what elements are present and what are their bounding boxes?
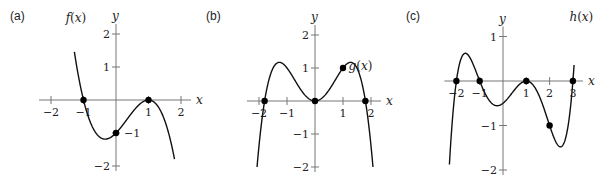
x-tick-label: 1 [145,106,152,119]
function-label: g(x) [349,59,373,73]
marked-point [261,98,267,104]
y-tick-label: −1 [124,127,140,140]
function-curve-c [449,53,574,164]
x-axis-label: x [196,93,203,107]
x-axis-label: x [588,74,595,88]
x-tick-label: −1 [75,106,91,119]
x-tick-label: −1 [279,107,295,120]
marked-point [477,78,483,84]
y-axis-label: y [310,10,318,24]
y-tick-label: −2 [481,164,497,177]
x-tick-label: 1 [523,87,530,100]
y-tick-label: −1 [293,128,309,141]
x-tick-label: 2 [546,87,553,100]
y-tick-label: 2 [103,28,110,41]
y-tick-label: 1 [302,62,309,75]
panel-label: (a) [10,9,25,23]
x-tick-label: −2 [251,107,267,120]
y-tick-label: −2 [293,161,309,174]
x-tick-label: −2 [43,106,59,119]
y-tick-label: −2 [94,160,110,173]
marked-point [570,78,576,84]
y-axis-label: y [111,9,119,23]
figure: (a)xy−2−11221−1−2f(x) (b)xy−2−11221−1−2g… [0,0,611,186]
y-tick-label: 1 [103,61,110,74]
x-tick-label: −2 [448,87,464,100]
y-axis-label: y [498,12,506,26]
panel-a-graph: (a)xy−2−11221−1−2f(x) [10,9,203,173]
marked-point [453,78,459,84]
panel-b-graph: (b)xy−2−11221−1−2g(x) [206,9,393,174]
marked-point [312,98,318,104]
y-tick-label: −1 [481,120,497,133]
marked-point [362,98,368,104]
marked-point [546,122,552,128]
panel-c-graph: (c)xy−2−11231−1−2h(x) [406,9,595,177]
panel-label: (c) [406,9,420,23]
x-tick-label: 1 [340,107,347,120]
marked-point [523,78,529,84]
x-tick-label: 2 [178,106,185,119]
marked-point [340,65,346,71]
marked-point [80,97,86,103]
marked-point [113,130,119,136]
function-label: f(x) [65,11,87,25]
x-axis-label: x [386,94,393,108]
y-tick-label: 1 [490,31,497,44]
function-label: h(x) [569,10,593,24]
panel-label: (b) [206,9,221,23]
marked-point [145,97,151,103]
y-tick-label: 2 [302,29,309,42]
